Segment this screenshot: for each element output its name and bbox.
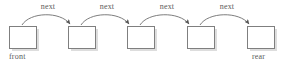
pointer-label-front: front — [9, 52, 26, 61]
edge-label-next-2: next — [93, 2, 121, 11]
edge-label-next-3: next — [153, 2, 181, 11]
next-arrow-4 — [200, 15, 249, 25]
next-arrows — [22, 15, 249, 25]
pointer-label-rear: rear — [252, 52, 265, 61]
edge-label-next-4: next — [213, 2, 241, 11]
node-box-5 — [248, 27, 275, 49]
node-box-2 — [69, 27, 96, 49]
next-arrow-3 — [140, 15, 189, 25]
next-arrow-2 — [81, 15, 129, 25]
next-arrow-1 — [22, 15, 70, 25]
node-box-4 — [188, 27, 215, 49]
node-boxes — [10, 27, 275, 49]
linked-list-diagram: next next next next front rear — [0, 0, 290, 68]
node-box-1 — [10, 27, 37, 49]
edge-label-next-1: next — [34, 2, 62, 11]
node-box-3 — [128, 27, 155, 49]
